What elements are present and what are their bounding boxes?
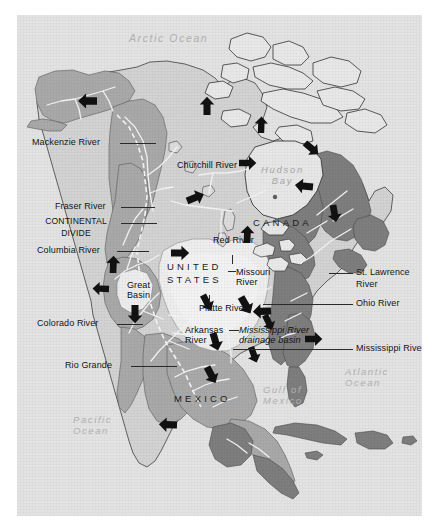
label-great-basin: Great Basin — [127, 280, 150, 300]
label-st-lawrence-river: St. Lawrence River — [356, 267, 410, 290]
label-churchill-river: Churchill River — [177, 160, 237, 170]
label-red-river: Red River — [213, 235, 254, 245]
leader-rio-grande — [131, 366, 177, 367]
label-ohio-river: Ohio River — [356, 298, 400, 308]
label-canada: CANADA — [253, 218, 312, 229]
map-figure: Arctic Ocean Hudson Bay Gulf of Mexico A… — [0, 0, 439, 532]
leader-ohio — [263, 304, 353, 305]
label-rio-grande: Rio Grande — [65, 360, 112, 370]
leader-st-lawrence — [329, 273, 353, 274]
label-pacific-ocean: Pacific Ocean — [73, 415, 112, 436]
map-plate: Arctic Ocean Hudson Bay Gulf of Mexico A… — [17, 15, 422, 516]
label-columbia-river: Columbia River — [37, 245, 100, 255]
leader-arkansas — [229, 330, 239, 331]
label-gulf-of-mexico: Gulf of Mexico — [263, 385, 303, 406]
leader-tick-missouri — [232, 255, 233, 264]
hudson-bay-island — [273, 195, 277, 199]
leader-columbia — [117, 251, 149, 252]
label-hudson-bay: Hudson Bay — [261, 165, 304, 186]
leader-mackenzie — [120, 143, 156, 144]
label-platte-river: Platte River — [199, 303, 247, 313]
label-fraser-river: Fraser River — [55, 201, 106, 211]
leader-colorado — [117, 324, 143, 325]
label-mackenzie-river: Mackenzie River — [32, 137, 100, 147]
label-arctic-ocean: Arctic Ocean — [129, 33, 208, 45]
leader-fraser — [121, 207, 155, 208]
leader-missouri-h — [228, 271, 236, 272]
label-missouri-river: Missouri River — [236, 267, 270, 287]
label-colorado-river: Colorado River — [37, 318, 98, 328]
label-atlantic-ocean: Atlantic Ocean — [345, 367, 389, 388]
label-united-states: UNITED STATES — [167, 261, 222, 287]
leader-mississippi — [233, 349, 353, 350]
label-mississippi-river: Mississippi River — [356, 343, 422, 353]
label-mexico: MEXICO — [174, 394, 231, 405]
leader-tick-platte — [209, 295, 210, 303]
label-drainage-basin: Mississippi River drainage basin — [239, 325, 309, 346]
leader-continental-divide — [121, 223, 157, 224]
label-arkansas-river: Arkansas River — [185, 325, 223, 345]
label-continental-divide: CONTINENTAL DIVIDE — [32, 216, 120, 239]
